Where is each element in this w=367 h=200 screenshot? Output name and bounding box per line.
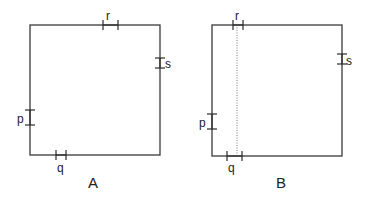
segment-mark-p: p: [199, 114, 217, 130]
segment-label-p: p: [17, 112, 24, 126]
segment-mark-q: q: [227, 151, 242, 175]
square-outline: [212, 25, 342, 156]
diagram-canvas: rspqA rspqB: [0, 0, 367, 200]
segment-label-s: s: [346, 54, 352, 68]
segment-label-p: p: [199, 116, 206, 130]
segment-label-s: s: [165, 57, 171, 71]
segment-label-q: q: [228, 161, 235, 175]
segment-mark-q: q: [56, 150, 66, 175]
segment-mark-p: p: [17, 110, 35, 126]
segment-mark-r: r: [103, 9, 118, 30]
figure-a: rspqA: [17, 9, 171, 191]
figure-caption: B: [276, 174, 286, 191]
segment-label-r: r: [106, 9, 110, 23]
figure-caption: A: [88, 174, 98, 191]
segment-label-q: q: [57, 161, 64, 175]
segment-mark-s: s: [155, 57, 171, 71]
segment-mark-s: s: [337, 54, 352, 68]
segment-mark-r: r: [233, 9, 243, 30]
square-outline: [30, 25, 160, 155]
segment-label-r: r: [235, 9, 239, 23]
figure-b: rspqB: [199, 9, 352, 191]
